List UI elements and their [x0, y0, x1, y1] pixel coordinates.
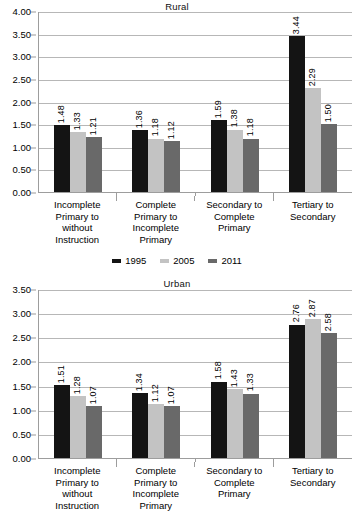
- category-label-line: Primary: [117, 234, 196, 246]
- category-label-line: Incomplete: [117, 488, 196, 500]
- category-label-line: Primary to: [38, 477, 117, 489]
- urban-bars-layer: 1.511.281.071.341.121.071.581.431.332.76…: [39, 290, 352, 458]
- bar-value-label: 1.21: [89, 117, 98, 135]
- bar-1995[interactable]: 1.36: [132, 130, 148, 192]
- bar-2011[interactable]: 1.07: [164, 406, 180, 458]
- y-tick-label: 3.50: [13, 30, 32, 40]
- y-tick-mark: [31, 459, 36, 460]
- category-label: Tertiary toSecondary: [274, 196, 353, 245]
- y-tick-label: 0.50: [13, 430, 32, 440]
- y-tick-label: 1.00: [13, 143, 32, 153]
- y-tick-mark: [31, 170, 36, 171]
- category-label-line: Complete: [117, 199, 196, 211]
- bar-2005[interactable]: 1.28: [70, 396, 86, 458]
- y-tick-label: 0.50: [13, 166, 32, 176]
- legend-item[interactable]: 2005: [160, 255, 194, 266]
- rural-chart-title: Rural: [0, 1, 354, 12]
- urban-chart: Urban 0.000.501.001.502.002.503.003.50 1…: [0, 276, 354, 532]
- category-label-line: Complete: [117, 465, 196, 477]
- bar-value-label: 1.50: [324, 104, 333, 122]
- y-tick-mark: [31, 314, 36, 315]
- y-tick-mark: [31, 386, 36, 387]
- bar-2011[interactable]: 1.07: [86, 406, 102, 458]
- legend-item[interactable]: 1995: [112, 255, 146, 266]
- bar-value-label: 1.38: [230, 109, 239, 127]
- y-tick-mark: [31, 57, 36, 58]
- bar-value-label: 1.33: [246, 373, 255, 391]
- category-label: Secondary toCompletePrimary: [195, 462, 274, 511]
- bar-group: 1.361.181.12: [117, 12, 195, 192]
- bar-group: 1.591.381.18: [196, 12, 274, 192]
- y-tick-label: 0.00: [13, 188, 32, 198]
- bar-2005[interactable]: 2.87: [305, 319, 321, 458]
- bar-2011[interactable]: 1.50: [321, 124, 337, 192]
- category-label-line: without: [38, 488, 117, 500]
- category-label: CompletePrimary toIncompletePrimary: [117, 196, 196, 245]
- bar-1995[interactable]: 1.34: [132, 393, 148, 458]
- rural-plot: 0.000.501.001.502.002.503.003.504.00 1.4…: [0, 12, 354, 194]
- bar-group: 1.341.121.07: [117, 290, 195, 458]
- legend-label: 1995: [125, 255, 146, 266]
- y-tick-mark: [31, 338, 36, 339]
- bar-1995[interactable]: 3.44: [289, 36, 305, 192]
- bar-2011[interactable]: 1.33: [243, 394, 259, 458]
- legend-swatch-icon: [208, 259, 217, 263]
- category-label-line: Complete: [195, 477, 274, 489]
- bar-2005[interactable]: 1.18: [148, 139, 164, 192]
- category-label-line: Secondary: [274, 477, 353, 489]
- category-label-line: Primary to: [38, 211, 117, 223]
- bar-1995[interactable]: 1.58: [211, 382, 227, 458]
- rural-chart: Rural 0.000.501.001.502.002.503.003.504.…: [0, 0, 354, 272]
- bar-value-label: 1.59: [214, 100, 223, 118]
- bar-value-label: 1.58: [214, 361, 223, 379]
- category-label-line: Secondary: [274, 211, 353, 223]
- y-tick-mark: [31, 34, 36, 35]
- y-tick-mark: [31, 362, 36, 363]
- category-label-line: without: [38, 222, 117, 234]
- bar-value-label: 2.76: [292, 304, 301, 322]
- rural-category-labels: IncompletePrimary towithoutInstructionCo…: [38, 196, 352, 245]
- legend-item[interactable]: 2011: [208, 255, 241, 266]
- category-label-line: Incomplete: [117, 222, 196, 234]
- bar-2005[interactable]: 1.43: [227, 389, 243, 458]
- urban-category-labels: IncompletePrimary towithoutInstructionCo…: [38, 462, 352, 511]
- category-label-line: Incomplete: [38, 465, 117, 477]
- bar-1995[interactable]: 2.76: [289, 325, 305, 458]
- category-label-line: Primary: [195, 488, 274, 500]
- y-tick-mark: [31, 193, 36, 194]
- rural-bars-layer: 1.481.331.211.361.181.121.591.381.183.44…: [39, 12, 352, 192]
- y-tick-label: 4.00: [13, 7, 32, 17]
- bar-value-label: 2.29: [308, 68, 317, 86]
- urban-plot-area: 1.511.281.071.341.121.071.581.431.332.76…: [38, 290, 352, 459]
- category-label-line: Tertiary to: [274, 465, 353, 477]
- bar-2011[interactable]: 1.12: [164, 141, 180, 192]
- y-tick-mark: [31, 79, 36, 80]
- bar-2005[interactable]: 1.12: [148, 404, 164, 458]
- y-tick-mark: [31, 290, 36, 291]
- category-label-line: Instruction: [38, 500, 117, 512]
- bar-2005[interactable]: 1.38: [227, 130, 243, 192]
- bar-value-label: 1.28: [73, 376, 82, 394]
- y-tick-mark: [31, 434, 36, 435]
- y-tick-mark: [31, 147, 36, 148]
- bar-1995[interactable]: 1.59: [211, 120, 227, 192]
- bar-2011[interactable]: 1.21: [86, 137, 102, 192]
- y-tick-label: 2.00: [13, 98, 32, 108]
- category-label-line: Secondary to: [195, 465, 274, 477]
- y-tick-label: 1.50: [13, 120, 32, 130]
- legend-swatch-icon: [112, 259, 121, 263]
- bar-value-label: 1.51: [57, 365, 66, 383]
- y-tick-mark: [31, 102, 36, 103]
- y-tick-mark: [31, 410, 36, 411]
- bar-value-label: 1.48: [57, 105, 66, 123]
- y-tick-label: 2.50: [13, 334, 32, 344]
- bar-1995[interactable]: 1.48: [54, 125, 70, 192]
- bar-2011[interactable]: 1.18: [243, 139, 259, 192]
- bar-2011[interactable]: 2.58: [321, 333, 337, 458]
- bar-1995[interactable]: 1.51: [54, 385, 70, 458]
- bar-2005[interactable]: 2.29: [305, 88, 321, 192]
- y-tick-label: 0.00: [13, 454, 32, 464]
- bar-2005[interactable]: 1.33: [70, 132, 86, 192]
- bar-group: 3.442.291.50: [274, 12, 352, 192]
- category-label-line: Instruction: [38, 234, 117, 246]
